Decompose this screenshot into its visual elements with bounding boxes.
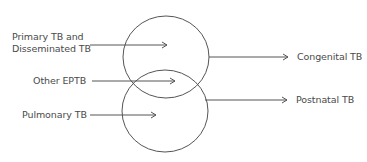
postnatal-tb-label: Postnatal TB	[296, 94, 354, 106]
postnatal-circle	[122, 70, 208, 152]
primary-tb-label: Primary TB and Disseminated TB	[12, 31, 91, 55]
pulmonary-tb-label: Pulmonary TB	[22, 109, 87, 121]
pulmonary-tb-arrow	[90, 112, 156, 118]
congenital-tb-label: Congenital TB	[297, 51, 362, 63]
congenital-circle	[123, 16, 209, 98]
tb-venn-diagram: Primary TB and Disseminated TB Other EPT…	[0, 0, 367, 162]
primary-tb-label-line1: Primary TB and	[12, 31, 91, 43]
congenital-tb-arrow	[209, 54, 288, 60]
primary-tb-label-line2: Disseminated TB	[12, 43, 91, 55]
postnatal-tb-arrow	[205, 97, 287, 103]
other-eptb-label: Other EPTB	[33, 75, 86, 87]
primary-tb-arrow	[90, 42, 167, 48]
